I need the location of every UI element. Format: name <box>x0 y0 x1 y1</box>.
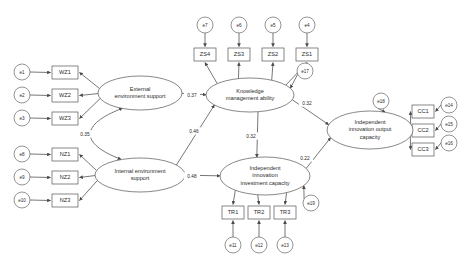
error-node-e19: e19 <box>303 195 319 211</box>
indicator-node-tr3: TR3 <box>274 206 296 219</box>
measurement-error-path-e8-to-NZ1 <box>30 154 51 155</box>
latent-label-line: innovation output <box>349 126 392 132</box>
latent-label-line: Independent <box>354 119 386 125</box>
latent-node-kma: Knowledgemanagement ability <box>206 78 294 112</box>
latent-node-iioc: Independentinnovation outputcapacity <box>327 111 413 149</box>
error-node-e18: e18 <box>373 93 389 109</box>
coefficient-ees-to-kma: 0.37 <box>184 91 200 98</box>
loading-path-iiic-to-TR2 <box>258 195 259 205</box>
error-label: e5 <box>270 23 276 28</box>
coefficient-value: 0.46 <box>189 129 199 134</box>
error-node-e1: e1 <box>14 64 30 80</box>
indicator-node-zs1: ZS1 <box>296 48 318 61</box>
latent-label-line: investment capacity <box>240 180 289 186</box>
indicator-label: ZS2 <box>268 51 278 57</box>
indicator-label: TR1 <box>228 209 239 215</box>
error-label: e11 <box>229 243 237 248</box>
latent-node-iiic: Independentinnovationinvestment capacity <box>220 157 310 195</box>
loading-path-iiic-to-TR1 <box>233 190 235 204</box>
latent-label-line: environment support <box>115 93 166 99</box>
error-node-e17: e17 <box>297 63 313 79</box>
indicator-label: NZ2 <box>60 174 71 180</box>
error-node-e2: e2 <box>14 87 30 103</box>
indicator-node-nz1: NZ1 <box>52 148 78 161</box>
coefficient-ees-ies-corr: 0.35 <box>77 130 93 137</box>
loading-path-kma-to-ZS2 <box>272 63 273 81</box>
structural-path-ies-to-kma <box>176 105 214 165</box>
indicator-label: CC1 <box>417 108 428 114</box>
indicator-label: CC3 <box>417 146 428 152</box>
error-label: e18 <box>377 99 385 104</box>
loading-path-ies-to-NZ1 <box>80 155 97 171</box>
loading-path-kma-to-ZS3 <box>238 63 239 79</box>
error-label: e17 <box>301 69 309 74</box>
error-label: e16 <box>445 141 453 146</box>
error-node-e4: e4 <box>299 17 315 33</box>
coefficient-value: 0.32 <box>302 101 312 106</box>
indicator-node-zs3: ZS3 <box>228 48 250 61</box>
error-label: e3 <box>19 116 25 121</box>
coefficient-ies-to-iiic: 0.48 <box>184 172 200 179</box>
latent-label-line: Knowledge <box>236 88 264 94</box>
loading-path-ees-to-WZ2 <box>80 94 99 96</box>
error-label: e8 <box>19 152 25 157</box>
error-label: e9 <box>19 175 25 180</box>
measurement-error-path-e1-to-WZ1 <box>30 72 51 73</box>
error-label: e7 <box>202 23 208 28</box>
error-node-e3: e3 <box>14 110 30 126</box>
error-node-e9: e9 <box>14 169 30 185</box>
coefficient-value: 0.22 <box>300 156 310 161</box>
error-node-e6: e6 <box>231 17 247 33</box>
error-label: e1 <box>19 70 25 75</box>
indicator-node-wz2: WZ2 <box>52 89 78 102</box>
indicator-node-cc1: CC1 <box>412 105 434 118</box>
indicator-label: NZ1 <box>60 151 71 157</box>
measurement-error-path-e2-to-WZ2 <box>30 95 51 96</box>
measurement-error-path-e14-to-CC1 <box>436 105 442 112</box>
error-node-e8: e8 <box>14 146 30 162</box>
error-node-e11: e11 <box>225 237 241 253</box>
loading-path-iiic-to-TR3 <box>285 193 287 205</box>
indicator-node-tr1: TR1 <box>222 206 244 219</box>
indicator-node-zs2: ZS2 <box>262 48 284 61</box>
indicator-node-zs4: ZS4 <box>194 48 216 61</box>
latent-label-line: innovation <box>252 172 278 178</box>
measurement-error-path-e9-to-NZ2 <box>30 177 51 178</box>
loading-path-ies-to-NZ2 <box>80 176 96 178</box>
latent-label-line: support <box>131 175 150 181</box>
loading-path-kma-to-ZS4 <box>205 63 217 84</box>
error-label: e2 <box>19 93 25 98</box>
loading-path-ies-to-NZ3 <box>80 180 98 200</box>
correlation-path-ees-ies <box>90 108 122 159</box>
indicator-label: WZ3 <box>59 115 71 121</box>
latent-label-line: Independent <box>249 165 281 171</box>
error-label: e14 <box>445 103 453 108</box>
measurement-error-path-e15-to-CC2 <box>436 124 442 131</box>
indicator-label: TR3 <box>280 209 291 215</box>
latent-label-line: External <box>130 86 151 92</box>
latent-label-line: Internal environment <box>115 168 166 174</box>
error-label: e4 <box>304 23 310 28</box>
coefficient-value: 0.48 <box>187 174 197 179</box>
indicator-node-cc3: CC3 <box>412 143 434 156</box>
coefficient-value: 0.35 <box>80 132 90 137</box>
error-label: e13 <box>281 243 289 248</box>
indicator-label: NZ3 <box>60 197 71 203</box>
indicator-label: ZS1 <box>302 51 312 57</box>
loading-path-ees-to-WZ3 <box>80 98 101 118</box>
indicator-node-tr2: TR2 <box>248 206 270 219</box>
error-node-e7: e7 <box>197 17 213 33</box>
coefficient-kma-to-iiic: 0.32 <box>243 132 259 139</box>
latent-node-ees: Externalenvironment support <box>98 76 182 110</box>
indicator-label: ZS4 <box>200 51 210 57</box>
loading-path-ees-to-WZ1 <box>80 73 100 89</box>
indicator-node-nz3: NZ3 <box>52 194 78 207</box>
indicator-node-wz3: WZ3 <box>52 112 78 125</box>
indicator-label: WZ1 <box>59 69 71 75</box>
error-node-e10: e10 <box>14 192 30 208</box>
error-node-e14: e14 <box>441 97 457 113</box>
indicator-label: CC2 <box>417 127 428 133</box>
latent-label-line: management ability <box>226 95 275 101</box>
coefficient-value: 0.32 <box>246 134 256 139</box>
error-label: e19 <box>307 201 315 206</box>
